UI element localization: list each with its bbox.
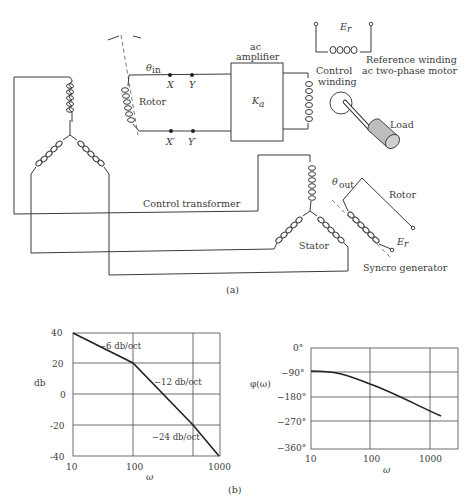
- stator-coil-left: [31, 135, 70, 174]
- control-transformer-label: Control transformer: [143, 198, 241, 209]
- theta-out-label: θ: [332, 176, 338, 187]
- phase-ylabel: φ(ω): [250, 379, 271, 389]
- control-transformer-stator: [31, 77, 109, 174]
- terminal-x-prime: [169, 129, 173, 133]
- svg-text:1000: 1000: [419, 454, 442, 464]
- label-x-prime: X′: [165, 136, 176, 147]
- svg-text:-20: -20: [50, 421, 65, 431]
- terminal-y: [190, 73, 194, 77]
- phase-curve: [311, 371, 441, 416]
- control-winding: Control winding: [283, 65, 357, 129]
- svg-text:a: a: [259, 99, 264, 109]
- magnitude-xlabel: ω: [146, 472, 154, 482]
- motor-and-load: Load: [330, 92, 414, 151]
- svg-text:20: 20: [52, 359, 64, 369]
- load-label: Load: [390, 119, 414, 130]
- stator-coil-right: [70, 135, 109, 174]
- svg-text:Control: Control: [316, 65, 352, 76]
- slope-annotation-1: −6 db/oct: [99, 341, 142, 351]
- svg-text:out: out: [339, 180, 354, 190]
- servo-system-figure: θ in Rotor X Y X′ Y′ ac amplifier K a: [0, 0, 473, 501]
- theta-in-arrow: [108, 36, 119, 40]
- svg-text:1000: 1000: [208, 462, 231, 472]
- svg-text:10: 10: [66, 462, 78, 472]
- svg-text:−90°: −90°: [281, 368, 305, 378]
- er-generator-label: E: [396, 236, 404, 247]
- label-y: Y: [189, 79, 197, 90]
- schematic-a: θ in Rotor X Y X′ Y′ ac amplifier K a: [14, 21, 458, 295]
- svg-text:0°: 0°: [293, 343, 303, 353]
- magnitude-ylabel: db: [34, 378, 46, 388]
- terminal-x: [168, 73, 172, 77]
- svg-text:0: 0: [60, 390, 66, 400]
- svg-text:40: 40: [51, 328, 63, 338]
- svg-text:Reference winding: Reference winding: [366, 54, 457, 65]
- phase-xlabel: ω: [383, 465, 391, 475]
- svg-text:100: 100: [126, 462, 143, 472]
- svg-text:r: r: [347, 24, 352, 34]
- svg-text:winding: winding: [318, 76, 357, 87]
- svg-text:100: 100: [363, 454, 380, 464]
- label-y-prime: Y′: [188, 136, 197, 147]
- svg-text:-40: -40: [50, 452, 65, 462]
- generator-rotor-label: Rotor: [389, 189, 416, 200]
- svg-text:10: 10: [305, 454, 317, 464]
- svg-text:−360°: −360°: [277, 443, 306, 453]
- ac-amplifier: ac amplifier K a: [231, 41, 283, 141]
- syncro-generator-label: Syncro generator: [363, 262, 448, 273]
- stator-label: Stator: [299, 240, 330, 251]
- slope-annotation-3: −24 db/oct: [152, 432, 200, 442]
- terminal-y-prime: [191, 129, 195, 133]
- svg-text:ac two-phase motor: ac two-phase motor: [362, 65, 458, 76]
- svg-text:r: r: [404, 239, 409, 249]
- label-x: X: [166, 79, 175, 90]
- svg-text:in: in: [152, 65, 161, 75]
- interconnect-wires: [14, 77, 348, 275]
- terminals: X Y X′ Y′: [165, 73, 197, 147]
- generator-rotor-axis: [332, 200, 391, 258]
- er-reference-label: E: [339, 21, 347, 32]
- magnitude-plot: 40 20 0 -20 -40 10 100 1000 db ω −6 db/o…: [34, 328, 231, 482]
- caption-b: (b): [228, 484, 242, 495]
- rotor-axis-dashed: [121, 35, 138, 135]
- slope-annotation-2: −12 db/oct: [154, 377, 202, 387]
- ct-rotor-label: Rotor: [139, 96, 166, 107]
- svg-text:−270°: −270°: [277, 417, 306, 427]
- phase-plot-frame: [311, 348, 458, 449]
- phase-plot: 0° −90° −180° −270° −360° φ(ω) 10 100 10…: [250, 343, 458, 475]
- svg-text:−180°: −180°: [277, 392, 306, 402]
- svg-text:amplifier: amplifier: [236, 51, 280, 62]
- caption-a: (a): [226, 284, 239, 295]
- syncro-generator-rotor: θ out Rotor E r Syncro generator: [332, 176, 448, 273]
